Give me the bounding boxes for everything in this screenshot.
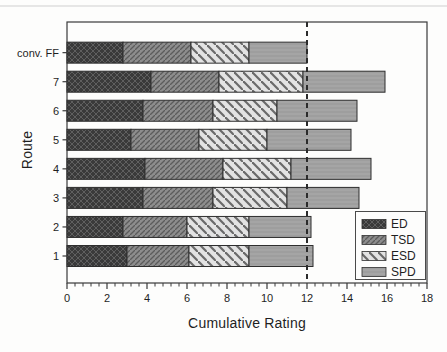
x-tick-label: 12 xyxy=(301,292,313,304)
y-axis-title: Route xyxy=(19,131,35,169)
x-tick-label: 4 xyxy=(144,292,150,304)
bar-route-7-segment-ED xyxy=(67,71,151,92)
bar-route-1-segment-ED xyxy=(67,246,127,267)
bar-route-5-segment-ESD xyxy=(199,129,267,150)
x-tick-label: 14 xyxy=(341,292,353,304)
bar-route-conv. FF-segment-TSD xyxy=(123,42,191,63)
x-tick-label: 0 xyxy=(64,292,70,304)
x-tick-label: 16 xyxy=(381,292,393,304)
bar-route-6-segment-SPD xyxy=(277,100,357,121)
bar-route-2-segment-SPD xyxy=(249,216,311,237)
bar-route-2-segment-TSD xyxy=(123,216,187,237)
bar-route-7-segment-TSD xyxy=(151,71,219,92)
x-tick-label: 6 xyxy=(184,292,190,304)
bar-route-7-segment-ESD xyxy=(219,71,303,92)
bar-route-5-segment-SPD xyxy=(267,129,351,150)
y-tick-label: 1 xyxy=(53,250,59,262)
x-tick-label: 18 xyxy=(421,292,433,304)
legend-label-TSD: TSD xyxy=(391,233,415,247)
legend-label-ESD: ESD xyxy=(391,249,416,263)
bar-route-conv. FF-segment-ESD xyxy=(191,42,249,63)
legend-swatch-TSD xyxy=(362,236,386,245)
y-tick-label: 7 xyxy=(53,76,59,88)
figure: 0246810121416181234567conv. FFEDTSDESDSP… xyxy=(0,0,447,352)
legend-swatch-ESD xyxy=(362,252,386,261)
bar-route-4-segment-SPD xyxy=(291,158,371,179)
bar-route-4-segment-ED xyxy=(67,158,145,179)
bar-route-3-segment-ESD xyxy=(213,187,287,208)
y-tick-label: conv. FF xyxy=(17,47,59,59)
bar-route-3-segment-ED xyxy=(67,187,143,208)
x-tick-label: 2 xyxy=(104,292,110,304)
bar-route-conv. FF-segment-ED xyxy=(67,42,123,63)
y-tick-label: 2 xyxy=(53,221,59,233)
y-tick-label: 3 xyxy=(53,192,59,204)
y-tick-label: 4 xyxy=(53,163,59,175)
bar-route-1-segment-TSD xyxy=(127,246,189,267)
legend-label-SPD: SPD xyxy=(391,265,416,279)
bar-route-3-segment-TSD xyxy=(143,187,213,208)
bar-route-1-segment-ESD xyxy=(189,246,249,267)
bar-route-6-segment-TSD xyxy=(143,100,213,121)
bar-route-4-segment-TSD xyxy=(145,158,223,179)
legend-swatch-ED xyxy=(362,220,386,229)
x-tick-label: 10 xyxy=(261,292,273,304)
x-axis-title: Cumulative Rating xyxy=(67,315,427,331)
x-tick-label: 8 xyxy=(224,292,230,304)
bar-route-3-segment-SPD xyxy=(287,187,359,208)
bar-route-4-segment-ESD xyxy=(223,158,291,179)
bar-route-6-segment-ESD xyxy=(213,100,277,121)
cumulative-rating-stacked-bar-chart: 0246810121416181234567conv. FFEDTSDESDSP… xyxy=(0,0,447,352)
bar-route-5-segment-ED xyxy=(67,129,131,150)
bar-route-6-segment-ED xyxy=(67,100,143,121)
bar-route-2-segment-ED xyxy=(67,216,123,237)
bar-route-7-segment-SPD xyxy=(303,71,385,92)
bar-route-5-segment-TSD xyxy=(131,129,199,150)
bar-route-2-segment-ESD xyxy=(187,216,249,237)
bar-route-1-segment-SPD xyxy=(249,246,313,267)
legend-swatch-SPD xyxy=(362,268,386,277)
bar-route-conv. FF-segment-SPD xyxy=(249,42,307,63)
y-tick-label: 6 xyxy=(53,105,59,117)
y-tick-label: 5 xyxy=(53,134,59,146)
legend-label-ED: ED xyxy=(391,217,408,231)
